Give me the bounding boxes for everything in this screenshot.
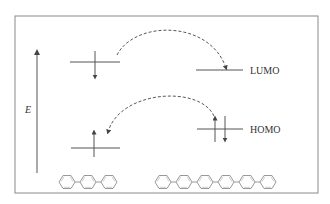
terphenyl-molecule <box>59 176 117 189</box>
left-homo-level <box>71 132 120 157</box>
sexiphenyl-molecule <box>155 176 276 189</box>
homo-transfer-arrow <box>108 96 214 132</box>
left-lumo-level <box>70 51 120 77</box>
energy-axis-label: E <box>24 104 31 115</box>
lumo-label: LUMO <box>250 65 279 76</box>
diagram-frame <box>15 16 318 193</box>
lumo-transfer-arrow <box>117 30 226 68</box>
homo-label: HOMO <box>250 124 281 135</box>
energy-diagram: E LUMO HOMO <box>0 0 330 204</box>
right-homo-level <box>197 116 243 142</box>
